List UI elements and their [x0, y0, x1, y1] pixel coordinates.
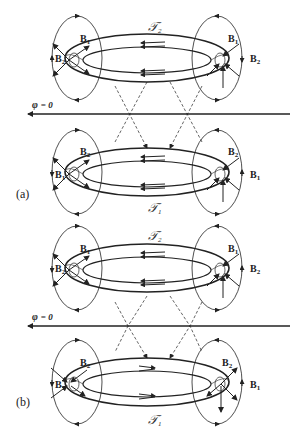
panel-label-b: (b): [16, 395, 30, 409]
torus-label-t1-b: 𝒯1: [148, 412, 162, 428]
field-label-b1-lower-left-b: B1: [55, 379, 66, 392]
field-label-b1-lower-right-a: B1: [250, 169, 261, 182]
torus-label-t2-a: 𝒯2: [148, 19, 162, 35]
axis-label-phi-a: φ= 0: [32, 99, 53, 110]
torus-label-t2-b: 𝒯2: [148, 228, 162, 244]
panel-label-a: (a): [16, 187, 29, 201]
field-label-b2-lower-right-b: B2: [222, 357, 233, 370]
torus-label-t1-a: 𝒯1: [148, 200, 162, 216]
figure: 𝒯2 B1 B2 B1 B2 φ= 0 𝒯1 B2 B1 B2 B1 (a): [0, 0, 295, 440]
field-label-b2-upper-right-a: B2: [250, 53, 261, 66]
field-label-b2-upper-right-b: B2: [250, 263, 261, 276]
panel-a-upper-ring: [52, 16, 242, 100]
field-label-b1-upper-right-a: B1: [228, 33, 239, 46]
dashed-field-connections-a: [115, 82, 202, 148]
field-label-b1-upper-right-b: B1: [228, 243, 239, 256]
axis-label-phi-b: φ= 0: [32, 311, 53, 322]
panel-a-lower-ring: [52, 130, 242, 214]
field-label-b1-lower-left-a: B1: [55, 169, 66, 182]
field-label-b1-lower-right-b: B1: [250, 379, 261, 392]
dashed-field-connections-b: [115, 296, 202, 358]
panel-b-upper-ring: [52, 226, 242, 310]
panel-b-lower-ring: [51, 340, 242, 424]
diagram-canvas: 𝒯2 B1 B2 B1 B2 φ= 0 𝒯1 B2 B1 B2 B1 (a): [0, 0, 295, 440]
field-label-b2-lower-right-a: B2: [228, 146, 239, 159]
